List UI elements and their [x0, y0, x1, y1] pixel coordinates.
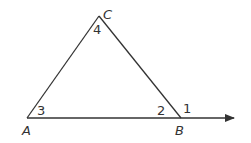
triangle-diagram: C A B 4 3 2 1	[0, 0, 251, 143]
angle-label-2: 2	[157, 103, 165, 118]
point-label-b: B	[175, 123, 184, 138]
angle-label-4: 4	[93, 22, 101, 37]
side-cb	[99, 16, 181, 118]
point-label-c: C	[103, 7, 113, 22]
angle-label-3: 3	[37, 103, 45, 118]
angle-label-1: 1	[183, 101, 191, 116]
point-label-a: A	[21, 123, 31, 138]
